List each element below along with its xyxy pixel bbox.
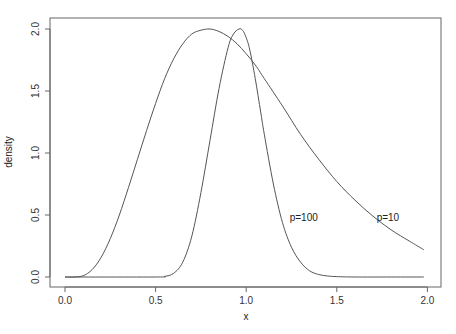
y-tick-label: 0.5 — [30, 208, 41, 222]
x-tick-label: 0.0 — [58, 295, 72, 306]
x-tick-label: 2.0 — [420, 295, 434, 306]
y-tick-label: 2.0 — [30, 22, 41, 36]
series-label: p=100 — [290, 212, 319, 223]
y-axis: 0.00.51.01.52.0 — [30, 22, 50, 284]
series-group: p=10p=100 — [65, 29, 424, 277]
x-tick-label: 1.0 — [239, 295, 253, 306]
y-tick-label: 1.5 — [30, 84, 41, 98]
series-line-p-10 — [65, 29, 424, 277]
density-chart: 0.00.51.01.52.0 0.00.51.01.52.0 x densit… — [0, 0, 456, 334]
x-tick-label: 0.5 — [149, 295, 163, 306]
x-axis-label: x — [244, 311, 249, 322]
x-tick-label: 1.5 — [330, 295, 344, 306]
plot-box — [50, 18, 441, 287]
series-label: p=10 — [377, 212, 400, 223]
x-axis: 0.00.51.01.52.0 — [58, 287, 435, 306]
series-line-p-100 — [65, 29, 424, 277]
y-tick-label: 0.0 — [30, 270, 41, 284]
y-tick-label: 1.0 — [30, 146, 41, 160]
y-axis-label: density — [3, 136, 14, 168]
